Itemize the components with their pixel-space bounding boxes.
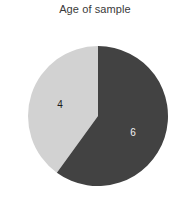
pie-svg — [0, 0, 190, 212]
pie-slice-label-4: 4 — [52, 99, 68, 110]
pie-chart: Age of sample 4 6 — [0, 0, 190, 212]
pie-slice-label-6: 6 — [125, 127, 141, 138]
